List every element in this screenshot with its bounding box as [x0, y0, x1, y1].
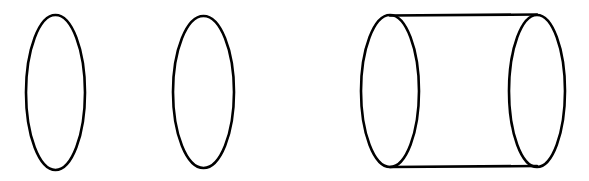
cylinder-bottom-edge: [390, 166, 537, 167]
figure-svg: [0, 0, 589, 181]
cylinder-top-edge: [390, 15, 537, 16]
ellipse-middle: [173, 16, 234, 168]
geometry-figure-canvas: [0, 0, 589, 181]
cylinder-group: [361, 15, 565, 168]
ellipse-middle-group: [173, 16, 234, 168]
ellipse-left: [26, 15, 85, 170]
ellipse-left-group: [26, 15, 85, 170]
cylinder-body-fill: [363, 15, 562, 168]
